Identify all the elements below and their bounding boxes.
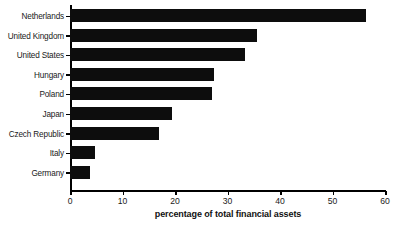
bar bbox=[70, 68, 214, 81]
y-axis-tick bbox=[66, 35, 70, 37]
bar-fill bbox=[70, 87, 212, 100]
y-axis-tick bbox=[66, 94, 70, 96]
bar bbox=[70, 48, 245, 61]
bar bbox=[70, 166, 90, 179]
bar bbox=[70, 87, 212, 100]
x-axis-tick bbox=[333, 191, 335, 195]
y-axis-tick bbox=[66, 16, 70, 18]
bar-fill bbox=[70, 127, 159, 140]
x-axis-tick-label: 20 bbox=[160, 196, 190, 206]
x-axis-tick bbox=[385, 191, 387, 195]
x-axis-tick-label: 50 bbox=[318, 196, 348, 206]
y-axis-tick bbox=[66, 114, 70, 116]
bar-fill bbox=[70, 166, 90, 179]
y-axis-label: Poland bbox=[0, 90, 64, 99]
x-axis-tick-label: 0 bbox=[55, 196, 85, 206]
y-axis-tick bbox=[66, 133, 70, 135]
bar-fill bbox=[70, 48, 245, 61]
y-axis-labels: NetherlandsUnited KingdomUnited StatesHu… bbox=[0, 0, 64, 229]
bar-fill bbox=[70, 29, 257, 42]
bar-chart: NetherlandsUnited KingdomUnited StatesHu… bbox=[0, 0, 402, 229]
x-axis-tick bbox=[123, 191, 125, 195]
bar-fill bbox=[70, 107, 172, 120]
y-axis-label: Czech Republic bbox=[0, 130, 64, 139]
bar bbox=[70, 29, 257, 42]
x-axis-tick-label: 40 bbox=[265, 196, 295, 206]
bar bbox=[70, 107, 172, 120]
x-axis-tick-label: 60 bbox=[370, 196, 400, 206]
y-axis-tick bbox=[66, 153, 70, 155]
x-axis-tick bbox=[175, 191, 177, 195]
x-axis-tick bbox=[70, 191, 72, 195]
x-axis-tick bbox=[280, 191, 282, 195]
y-axis-tick bbox=[66, 55, 70, 57]
y-axis-tick bbox=[66, 172, 70, 174]
bar-fill bbox=[70, 68, 214, 81]
bar-fill bbox=[70, 146, 95, 159]
y-axis-label: Italy bbox=[0, 149, 64, 158]
bar bbox=[70, 127, 159, 140]
x-axis-tick bbox=[228, 191, 230, 195]
bar-fill bbox=[70, 9, 366, 22]
x-axis-tick-label: 10 bbox=[108, 196, 138, 206]
x-axis-tick-label: 30 bbox=[213, 196, 243, 206]
y-axis-label: Netherlands bbox=[0, 12, 64, 21]
y-axis-label: Germany bbox=[0, 169, 64, 178]
y-axis-label: Japan bbox=[0, 110, 64, 119]
bar bbox=[70, 146, 95, 159]
plot-area bbox=[70, 5, 385, 190]
y-axis-label: Hungary bbox=[0, 71, 64, 80]
y-axis-label: United Kingdom bbox=[0, 32, 64, 41]
y-axis-label: United States bbox=[0, 51, 64, 60]
bar bbox=[70, 9, 366, 22]
x-axis-title: percentage of total financial assets bbox=[70, 209, 386, 219]
y-axis-tick bbox=[66, 74, 70, 76]
